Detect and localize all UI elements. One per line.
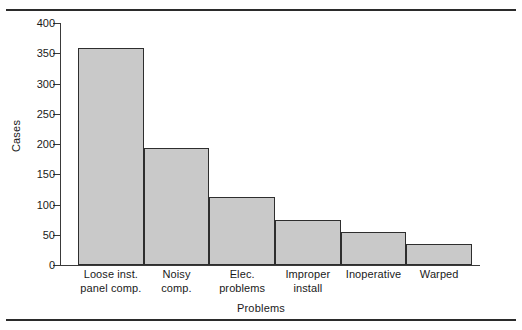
y-tick-label: 200 [21, 138, 55, 150]
x-category-label-line: Elec. [209, 268, 275, 282]
y-tick-label: 150 [21, 168, 55, 180]
bar-chart-figure: Cases 050100150200250300350400 Loose ins… [0, 0, 522, 330]
bar[interactable] [406, 244, 472, 265]
x-category-label-line: comp. [144, 282, 210, 296]
x-axis-title: Problems [0, 302, 522, 314]
y-axis-line [60, 23, 61, 265]
x-category-label-line: panel comp. [78, 282, 144, 296]
x-category-label: Warped [406, 268, 472, 302]
y-tick-label: 0 [21, 259, 55, 271]
bar[interactable] [341, 232, 407, 265]
x-category-label: Loose inst.panel comp. [78, 268, 144, 302]
x-category-label-line: problems [209, 282, 275, 296]
y-tick-label: 400 [21, 17, 55, 29]
bar[interactable] [78, 48, 144, 265]
bar[interactable] [209, 197, 275, 265]
y-tick-label: 250 [21, 108, 55, 120]
bar[interactable] [275, 220, 341, 265]
y-tick-label: 300 [21, 78, 55, 90]
x-axis-line [60, 265, 480, 266]
bar-series [78, 23, 472, 265]
plot-area: 050100150200250300350400 [60, 23, 480, 265]
y-tick-label: 350 [21, 47, 55, 59]
x-category-label-line: Noisy [144, 268, 210, 282]
x-axis-category-labels: Loose inst.panel comp.Noisycomp.Elec.pro… [78, 268, 472, 302]
x-category-label-line: Warped [406, 268, 472, 282]
x-category-label-line: install [275, 282, 341, 296]
x-category-label: Noisycomp. [144, 268, 210, 302]
x-category-label: Inoperative [341, 268, 407, 302]
x-category-label: Improperinstall [275, 268, 341, 302]
x-category-label-line: Loose inst. [78, 268, 144, 282]
y-tick-label: 100 [21, 199, 55, 211]
x-category-label-line: Inoperative [341, 268, 407, 282]
x-category-label: Elec.problems [209, 268, 275, 302]
y-tick-label: 50 [21, 229, 55, 241]
bar[interactable] [144, 148, 210, 265]
x-category-label-line: Improper [275, 268, 341, 282]
